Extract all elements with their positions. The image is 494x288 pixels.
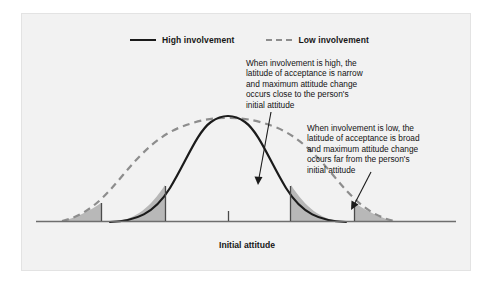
legend-label-low-involvement: Low involvement [298, 35, 368, 45]
legend-entry-high-involvement: High involvement [130, 35, 234, 45]
leader-arrow-low [351, 172, 371, 210]
axis-caption-initial-attitude: Initial attitude [0, 240, 494, 250]
leader-arrow-high [255, 112, 272, 185]
annotation-low-involvement: When involvement is low, the latitude of… [307, 123, 467, 175]
figure-root: High involvement Low involvement When in… [0, 0, 494, 288]
legend: High involvement Low involvement [130, 30, 390, 50]
annotation-high-involvement: When involvement is high, the latitude o… [246, 58, 396, 110]
legend-label-high-involvement: High involvement [162, 35, 234, 45]
dashed-line-swatch-icon [266, 39, 292, 41]
solid-line-swatch-icon [130, 39, 156, 41]
legend-entry-low-involvement: Low involvement [266, 35, 368, 45]
